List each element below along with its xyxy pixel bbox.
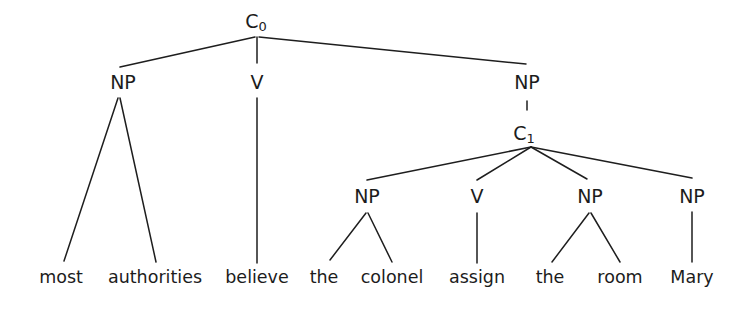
edge-c1-np-a: [367, 147, 531, 180]
node-np-subject: NP: [110, 71, 136, 93]
node-np-object: NP: [514, 71, 540, 93]
leaf-mary: Mary: [670, 267, 713, 287]
leaf-room: room: [597, 267, 642, 287]
edge-c1-np-c: [531, 147, 692, 178]
leaf-colonel: colonel: [361, 267, 424, 287]
leaf-the-2: the: [536, 267, 565, 287]
edge-npb-the: [552, 213, 589, 262]
leaf-the-1: the: [310, 267, 339, 287]
edge-np1-authorities: [120, 98, 156, 262]
node-c0: C0: [245, 10, 267, 34]
node-np-embedded-object2: NP: [679, 185, 705, 207]
leaf-assign: assign: [449, 267, 505, 287]
node-np-embedded-subject: NP: [354, 185, 380, 207]
node-v-main: V: [251, 71, 264, 93]
leaf-believe: believe: [225, 267, 289, 287]
edge-c0-np2: [259, 37, 526, 64]
edge-npa-colonel: [368, 213, 392, 262]
edge-c0-np1: [120, 37, 255, 67]
edge-npb-room: [591, 213, 620, 262]
leaf-authorities: authorities: [108, 267, 202, 287]
tree-edges: [64, 37, 692, 263]
tree-leaves: most authorities believe the colonel ass…: [39, 267, 714, 287]
node-c1: C1: [513, 122, 535, 146]
node-v-embedded: V: [471, 185, 484, 207]
node-np-embedded-object1: NP: [577, 185, 603, 207]
leaf-most: most: [39, 267, 83, 287]
tree-nodes: C0 NP V NP C1 NP V NP NP: [110, 10, 705, 207]
edge-np1-most: [64, 98, 118, 261]
edge-npa-the: [330, 213, 366, 260]
syntax-tree: C0 NP V NP C1 NP V NP NP most authoritie…: [0, 0, 750, 310]
